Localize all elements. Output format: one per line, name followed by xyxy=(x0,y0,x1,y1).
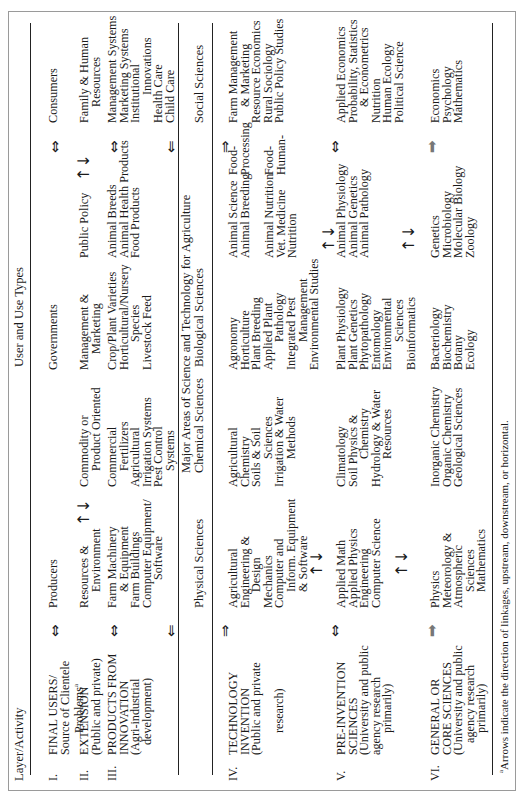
row-6-layer: VI.GENERAL OR CORE SCIENCES (University … xyxy=(430,645,488,781)
footnote: aArrows indicate the direction of linkag… xyxy=(497,420,510,773)
header-user-use-types: User and Use Types xyxy=(14,267,26,367)
row-4-farm-management: Farm Management & Marketing Resource Eco… xyxy=(228,19,286,123)
row-4-layer: IV.TECHNOLOGY INVENTION (Public and priv… xyxy=(228,662,286,781)
bidirectional-arrow-icon: ⇔ xyxy=(48,625,62,637)
row-5-plant-physiology: Plant Physiology Plant Genetics Phytopat… xyxy=(336,287,417,370)
row-4-agricultural-engineering: Agricultural Engineering & Design Mechan… xyxy=(228,499,309,608)
row-4-food-human: Food- Human- xyxy=(264,135,287,175)
right-double-arrow-icon: ⇒ xyxy=(218,625,232,637)
row-3-crop: Crop/Plant Varieties Horticultural/Nurse… xyxy=(107,264,153,370)
bidirectional-arrow-icon: ⇔ xyxy=(328,625,342,637)
up-down-arrows-icon: ↑↓ xyxy=(402,225,416,252)
row-5-layer: V.PRE-INVENTION SCIENCES (University and… xyxy=(336,645,394,781)
row-2-family: Family & Human Resources xyxy=(79,37,102,123)
left-double-arrow-icon: ⇐ xyxy=(164,141,178,153)
row-5-climatology: Climatology Soil Physics & Chemistry Hyd… xyxy=(336,390,394,487)
up-down-arrows-icon: ↑↓ xyxy=(395,550,409,577)
row-1-producers: Producers xyxy=(48,559,60,608)
row-6-inorganic-chemistry: Inorganic Chemistry Organic Chemistry Ge… xyxy=(430,387,465,487)
bidirectional-arrow-icon: ⇔ xyxy=(328,141,342,153)
row-1-governments: Governments xyxy=(48,304,60,370)
up-down-arrows-icon: ↑↓ xyxy=(310,550,324,577)
row-2-resources: Resources & Environment xyxy=(79,528,102,608)
row-6-genetics: Genetics Microbiology Molecular Biology … xyxy=(430,166,476,258)
row-4-animal-nutrition: Animal Nutrition Vet. Medicine Nutrition xyxy=(264,174,299,258)
row-2-management: Management & Marketing xyxy=(79,294,102,370)
col-physical-sciences: Physical Sciences xyxy=(194,519,206,608)
row-1-consumers: Consumers xyxy=(48,68,60,123)
row-4-animal-science: Animal Science Animal Breeding xyxy=(228,174,251,258)
row-3-commercial: Commercial Fertilizers Agricultural Irri… xyxy=(107,397,177,487)
row-4-food-processing: Food- Processing xyxy=(228,122,251,175)
up-down-arrows-icon: ↑↓ xyxy=(77,499,91,526)
up-down-arrows-icon: ↑↓ xyxy=(77,154,91,181)
row-4-agricultural-chemistry: Agricultural Chemistry Soils & Soil Scie… xyxy=(228,397,298,487)
row-5-animal-physiology: Animal Physiology Animal Genetics Animal… xyxy=(336,164,371,258)
col-chemical-sciences: Chemical Sciences xyxy=(194,378,206,473)
row-2-layer: II.EXTENSION (Public and private) xyxy=(79,658,102,781)
row-3-layer: III.PRODUCTS FROM INNOVATION (Agri-indus… xyxy=(107,654,153,781)
row-4-agronomy: Agronomy Horticulture Plant Breeding App… xyxy=(228,259,321,370)
row-3-management-systems: Management Systems Marketing Systems Ins… xyxy=(107,16,177,123)
header-rule xyxy=(30,23,31,775)
col-biological-sciences: Biological Sciences xyxy=(194,268,206,367)
row-5-applied-math: Applied Math Applied Physics Engineering… xyxy=(336,518,382,608)
header-layer-activity: Layer/Activity xyxy=(14,707,26,781)
bottom-rule xyxy=(492,23,493,775)
header-major-areas: Major Areas of Science and Technology fo… xyxy=(181,195,193,473)
right-gray-arrow-icon: ➡ xyxy=(425,625,439,637)
science-header-rule xyxy=(212,23,213,775)
right-gray-arrow-icon: ➡ xyxy=(425,141,439,153)
row-2-public-policy: Public Policy xyxy=(79,193,91,258)
row-3-animal-breeds: Animal Breeds Animal Health Products Foo… xyxy=(107,140,142,258)
row-2-commodity: Commodity or Product Oriented xyxy=(79,387,102,487)
bidirectional-arrow-icon: ⇔ xyxy=(48,141,62,153)
row-5-applied-economics: Applied Economics Probability, Statistic… xyxy=(336,20,406,123)
rotated-table-page: Layer/Activity User and Use Types I.FINA… xyxy=(0,0,526,803)
col-social-sciences: Social Sciences xyxy=(194,45,206,123)
row-6-bacteriology: Bacteriology Biochemistry Botany Ecology xyxy=(430,304,476,370)
row-3-farm-machinery: Farm Machinery & Equipment Farm Building… xyxy=(107,499,165,608)
row-6-economics: Economics Psychology Mathematics xyxy=(430,60,465,123)
row-6-physics: Physics Meteorology & Atmospheric Scienc… xyxy=(430,529,488,608)
bidirectional-arrow-icon: ⇔ xyxy=(107,141,121,153)
bidirectional-arrow-icon: ⇔ xyxy=(107,625,121,637)
left-double-arrow-icon: ⇐ xyxy=(164,625,178,637)
